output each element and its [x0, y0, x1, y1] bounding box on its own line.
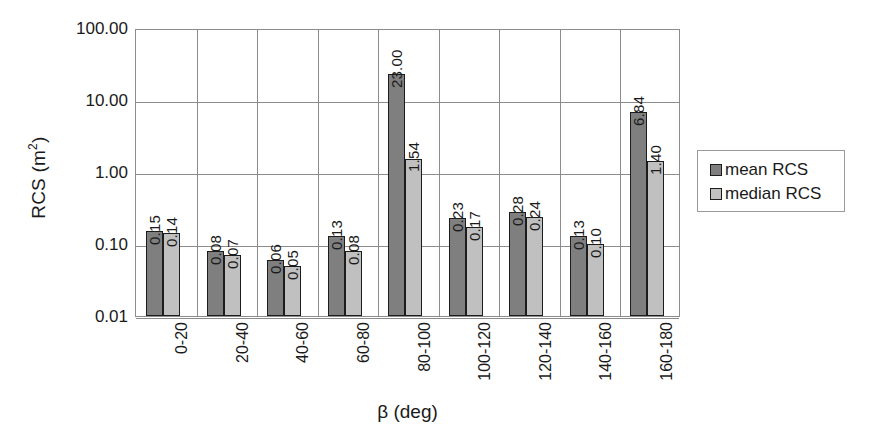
legend-swatch-mean-rcs: [710, 164, 722, 176]
y-axis-tick-label: 0.01: [42, 307, 128, 327]
y-axis-tick-label: 0.10: [42, 235, 128, 255]
x-axis-tick-label: 120-140: [537, 322, 555, 381]
y-axis-tick-label: 1.00: [42, 163, 128, 183]
y-axis-tick-label: 100.00: [42, 19, 128, 39]
chart-legend: mean RCS median RCS: [697, 150, 845, 212]
y-axis-tick-labels: 100.0010.001.000.100.01: [40, 0, 128, 438]
x-axis-tick-label: 80-100: [416, 322, 434, 372]
x-axis-tick-label: 140-160: [597, 322, 615, 381]
legend-swatch-median-rcs: [710, 188, 722, 200]
y-axis-tick-label: 10.00: [42, 91, 128, 111]
x-axis-tick-label: 20-40: [234, 322, 252, 363]
legend-item-median-rcs[interactable]: median RCS: [710, 182, 844, 206]
legend-item-mean-rcs[interactable]: mean RCS: [710, 158, 844, 182]
x-axis-tick-label: 160-180: [658, 322, 676, 381]
chart-figure: RCS (m2) 100.0010.001.000.100.01 0.150.1…: [0, 0, 882, 438]
x-axis-title: β (deg): [135, 401, 680, 423]
legend-label-median-rcs: median RCS: [725, 184, 821, 204]
x-axis-tick-label: 60-80: [355, 322, 373, 363]
x-axis-tick-label: 0-20: [173, 322, 191, 354]
x-axis-tick-label: 40-60: [294, 322, 312, 363]
y-axis-title-exponent: 2: [26, 143, 40, 150]
legend-label-mean-rcs: mean RCS: [725, 160, 808, 180]
x-axis-tick-labels: 0-2020-4040-6060-8080-100100-120120-1401…: [135, 0, 680, 438]
x-axis-tick-label: 100-120: [476, 322, 494, 381]
